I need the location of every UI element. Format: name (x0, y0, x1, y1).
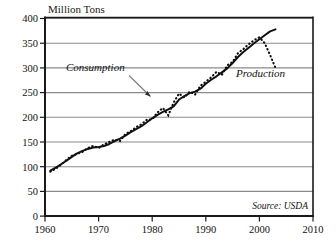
x-tick-1980: 1980 (142, 224, 163, 235)
chart-background (0, 0, 336, 252)
chart-svg: Million Tons (0, 0, 336, 252)
x-tick-1960: 1960 (35, 224, 56, 235)
y-tick-400: 400 (22, 13, 38, 24)
y-axis-title: Million Tons (48, 3, 105, 15)
y-tick-350: 350 (22, 38, 38, 49)
x-tick-1970: 1970 (88, 224, 109, 235)
x-tick-2010: 2010 (303, 224, 324, 235)
y-tick-250: 250 (22, 87, 38, 98)
x-tick-2000: 2000 (249, 224, 270, 235)
source-note: Source: USDA (252, 201, 308, 211)
y-tick-50: 50 (28, 186, 39, 197)
x-tick-1990: 1990 (195, 224, 216, 235)
y-tick-300: 300 (22, 63, 38, 74)
y-tick-150: 150 (22, 137, 38, 148)
chart-container: Million Tons (0, 0, 336, 252)
y-tick-200: 200 (22, 112, 38, 123)
production-label: Production (235, 67, 286, 79)
y-tick-0: 0 (33, 211, 38, 222)
y-tick-100: 100 (22, 162, 38, 173)
consumption-label: Consumption (66, 61, 125, 73)
